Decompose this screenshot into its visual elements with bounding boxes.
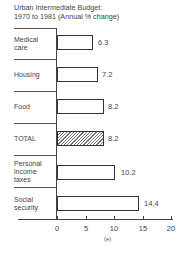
category-label-social-security: Social security bbox=[14, 196, 54, 212]
x-tick bbox=[143, 216, 144, 219]
chart-title: Urban Intermediate Budget: 1970 to 1981 … bbox=[14, 4, 119, 21]
x-tick bbox=[86, 216, 87, 219]
category-label-food: Food bbox=[14, 103, 54, 111]
row-separator bbox=[14, 187, 56, 188]
row-separator bbox=[14, 91, 56, 92]
chart-title-line-2: 1970 to 1981 (Annual % change) bbox=[14, 13, 119, 22]
x-tick-label-15: 15 bbox=[133, 224, 153, 233]
x-tick bbox=[114, 216, 115, 219]
value-label-medical-care: 6.3 bbox=[98, 38, 108, 47]
x-tick bbox=[57, 216, 58, 219]
bar-total bbox=[57, 131, 104, 146]
bar-medical-care bbox=[57, 35, 93, 50]
x-tick-label-5: 5 bbox=[76, 224, 96, 233]
x-tick-label-0: 0 bbox=[47, 224, 67, 233]
category-label-total: TOTAL bbox=[14, 135, 54, 143]
bar-personal-income-taxes bbox=[57, 165, 115, 180]
bar-housing bbox=[57, 67, 98, 82]
x-tick-label-20: 20 bbox=[161, 224, 181, 233]
figure-caption: (e) bbox=[104, 236, 111, 242]
row-separator bbox=[14, 59, 56, 60]
x-axis-line bbox=[18, 219, 173, 220]
category-label-housing: Housing bbox=[14, 71, 54, 79]
category-label-personal-income-taxes: Personal income taxes bbox=[14, 160, 54, 184]
row-separator bbox=[14, 155, 56, 156]
value-label-social-security: 14.4 bbox=[144, 199, 159, 208]
value-label-housing: 7.2 bbox=[102, 70, 112, 79]
value-label-total: 8.2 bbox=[108, 134, 118, 143]
y-axis-line bbox=[56, 28, 57, 220]
row-separator bbox=[14, 123, 56, 124]
value-label-food: 8.2 bbox=[108, 102, 118, 111]
category-label-medical-care: Medical care bbox=[14, 36, 54, 52]
x-tick bbox=[171, 216, 172, 219]
x-tick-label-10: 10 bbox=[104, 224, 124, 233]
bar-social-security bbox=[57, 196, 139, 211]
value-label-personal-income-taxes: 10.2 bbox=[121, 168, 136, 177]
row-separator bbox=[14, 28, 56, 29]
bar-food bbox=[57, 99, 104, 114]
